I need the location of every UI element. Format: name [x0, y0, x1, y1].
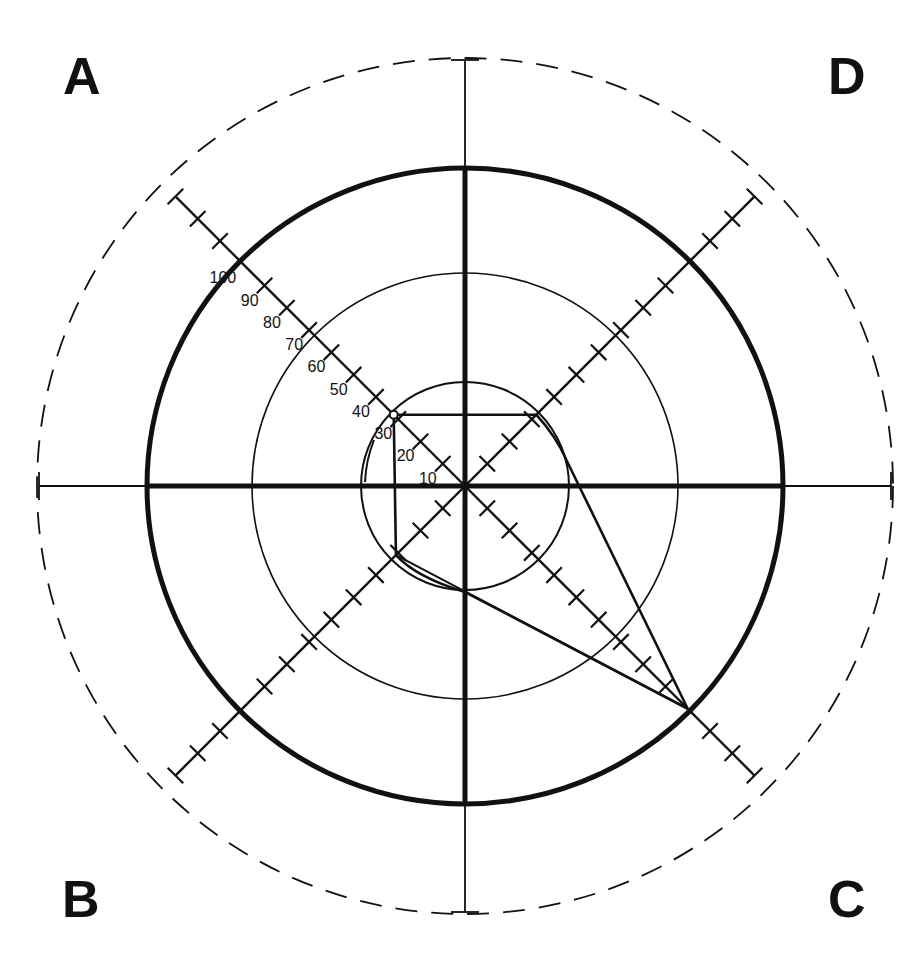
- profile-b-c-chord: [396, 555, 688, 709]
- diagonal-axis-c: [465, 486, 755, 776]
- scale-label-40: 40: [352, 403, 370, 420]
- corner-label-a: A: [63, 50, 101, 102]
- scale-label-70: 70: [285, 336, 303, 353]
- scale-label-20: 20: [397, 447, 415, 464]
- corner-label-c: C: [828, 873, 866, 925]
- scale-label-10: 10: [419, 470, 437, 487]
- diagonal-axis-a: [175, 196, 465, 486]
- scale-labels: 102030405060708090100: [210, 269, 437, 486]
- corner-label-b: B: [62, 873, 100, 925]
- scale-label-50: 50: [330, 381, 348, 398]
- scale-label-30: 30: [374, 425, 392, 442]
- corner-label-d: D: [828, 50, 866, 102]
- scale-label-60: 60: [308, 358, 326, 375]
- scale-label-100: 100: [210, 269, 237, 286]
- scale-label-90: 90: [241, 292, 259, 309]
- axes: [39, 60, 891, 912]
- diagonal-axis-d: [465, 196, 755, 486]
- diagonal-axis-b: [175, 486, 465, 776]
- scale-label-80: 80: [263, 314, 281, 331]
- radar-diagram: 102030405060708090100: [0, 0, 924, 977]
- vertex-a-marker: [390, 411, 398, 419]
